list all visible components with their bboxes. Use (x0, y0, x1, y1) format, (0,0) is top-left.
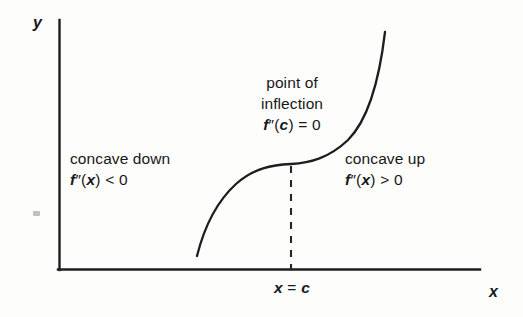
point-of-inflection-condition: f″(c) = 0 (212, 114, 372, 135)
x-equals-c-label: x = c (240, 277, 344, 298)
concave-down-annotation: concave down f″(x) < 0 (70, 148, 170, 190)
concave-up-condition: f″(x) > 0 (345, 169, 425, 190)
concave-down-condition: f″(x) < 0 (70, 169, 170, 190)
point-of-inflection-line-1: point of (212, 72, 372, 93)
point-of-inflection-annotation: point of inflection f″(c) = 0 (212, 72, 372, 135)
x-axis-label: x (489, 283, 498, 301)
concave-down-title: concave down (70, 148, 170, 169)
concavity-inflection-figure: y x point of inflection f″(c) = 0 concav… (0, 0, 523, 317)
point-of-inflection-line-2: inflection (212, 93, 372, 114)
y-axis-label: y (33, 14, 42, 32)
concave-up-annotation: concave up f″(x) > 0 (345, 148, 425, 190)
scan-artifact-speck (33, 211, 40, 216)
concave-up-title: concave up (345, 148, 425, 169)
